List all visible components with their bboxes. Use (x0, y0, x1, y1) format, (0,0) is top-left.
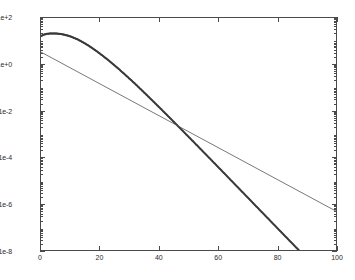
y-tick-minor (40, 231, 43, 232)
y-tick-minor (40, 184, 43, 185)
y-tick-minor-right (334, 67, 337, 68)
y-tick-minor-right (334, 104, 337, 105)
y-tick-minor (40, 29, 43, 30)
y-tick-minor (40, 158, 43, 159)
y-tick-minor-right (334, 88, 337, 89)
y-tick-minor-right (334, 99, 337, 100)
y-tick-minor (40, 118, 43, 119)
y-tick-minor (40, 161, 43, 162)
y-tick-minor-right (334, 114, 337, 115)
y-tick-minor (40, 190, 43, 191)
y-tick-minor (40, 208, 43, 209)
y-tick-minor-right (334, 80, 337, 81)
y-tick-minor-right (334, 240, 337, 241)
x-tick-label: 60 (214, 254, 222, 261)
y-tick-minor-right (334, 184, 337, 185)
y-tick-minor (40, 230, 43, 231)
y-tick-minor-right (334, 22, 337, 23)
y-tick-minor-right (334, 160, 337, 161)
y-tick-minor-right (334, 167, 337, 168)
y-tick-minor (40, 216, 43, 217)
y-tick-label: 1e-4 (0, 154, 12, 161)
y-tick-minor (40, 22, 43, 23)
plot-axes (40, 17, 337, 251)
y-tick-minor-right (334, 50, 337, 51)
y-tick-minor-right (334, 43, 337, 44)
x-tick-label: 0 (38, 254, 42, 261)
x-tick-major (337, 246, 338, 251)
y-tick-minor-right (334, 182, 337, 183)
y-tick-minor-right (334, 127, 337, 128)
y-tick-minor-right (334, 44, 337, 45)
y-tick-minor-right (334, 118, 337, 119)
y-tick-minor (40, 33, 43, 34)
y-tick-minor (40, 139, 43, 140)
y-tick-minor (40, 141, 43, 142)
y-tick-minor-right (334, 94, 337, 95)
y-tick-minor (40, 41, 43, 42)
y-tick-minor (40, 92, 43, 93)
y-tick-label: 1e-2 (0, 107, 12, 114)
y-tick-minor-right (334, 188, 337, 189)
series-straight-line (41, 52, 336, 212)
x-tick-label: 40 (155, 254, 163, 261)
y-tick-label: 1e+0 (0, 60, 12, 67)
y-tick-minor (40, 211, 43, 212)
y-tick-minor (40, 193, 43, 194)
y-tick-minor-right (334, 47, 337, 48)
y-tick-minor (40, 214, 43, 215)
y-tick-minor (40, 221, 43, 222)
x-tick-major-top (159, 17, 160, 22)
y-tick-minor (40, 205, 43, 206)
series-layer (41, 18, 336, 250)
y-tick-minor (40, 146, 43, 147)
y-tick-minor (40, 80, 43, 81)
y-tick-minor-right (334, 65, 337, 66)
y-tick-minor-right (334, 143, 337, 144)
x-tick-major-top (218, 17, 219, 22)
y-tick-minor (40, 244, 43, 245)
y-tick-minor-right (334, 231, 337, 232)
y-tick-minor-right (334, 164, 337, 165)
y-tick-minor-right (334, 221, 337, 222)
y-tick-minor (40, 206, 43, 207)
y-tick-minor-right (334, 183, 337, 184)
y-tick-minor (40, 209, 43, 210)
y-tick-minor (40, 47, 43, 48)
y-tick-minor (40, 127, 43, 128)
y-tick-label: 1e+2 (0, 14, 12, 21)
y-tick-minor (40, 164, 43, 165)
y-tick-minor-right (334, 214, 337, 215)
y-tick-minor (40, 229, 43, 230)
y-tick-minor (40, 113, 43, 114)
y-tick-minor (40, 112, 43, 113)
y-tick-minor (40, 160, 43, 161)
y-tick-minor-right (334, 209, 337, 210)
y-tick-minor-right (334, 186, 337, 187)
y-tick-minor-right (334, 163, 337, 164)
y-tick-label: 1e-8 (0, 248, 12, 255)
y-tick-minor-right (334, 66, 337, 67)
y-tick-minor (40, 46, 43, 47)
y-tick-minor-right (334, 150, 337, 151)
y-tick-minor (40, 89, 43, 90)
x-tick-major (40, 246, 41, 251)
y-tick-minor-right (334, 24, 337, 25)
y-tick-minor-right (334, 89, 337, 90)
y-tick-label: 1e-6 (0, 201, 12, 208)
x-tick-major (99, 246, 100, 251)
x-tick-major-top (99, 17, 100, 22)
y-tick-minor-right (334, 116, 337, 117)
y-tick-minor (40, 26, 43, 27)
y-tick-minor-right (334, 174, 337, 175)
y-tick-minor-right (334, 235, 337, 236)
y-tick-minor-right (334, 170, 337, 171)
y-tick-minor-right (334, 233, 337, 234)
figure-canvas: 1e+21e+01e-21e-41e-61e-8 020406080100 (0, 0, 355, 280)
y-tick-minor-right (334, 197, 337, 198)
y-tick-minor (40, 182, 43, 183)
y-tick-minor (40, 94, 43, 95)
y-tick-minor-right (334, 229, 337, 230)
y-tick-minor-right (334, 139, 337, 140)
y-tick-minor (40, 116, 43, 117)
